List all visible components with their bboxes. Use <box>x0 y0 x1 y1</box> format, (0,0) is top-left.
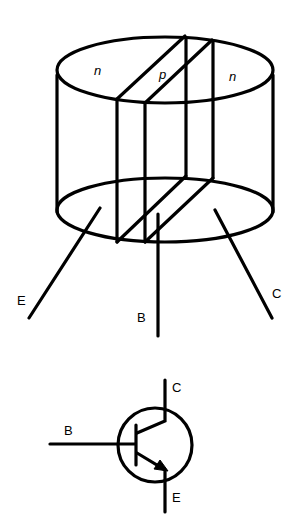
terminal-label-b: B <box>137 310 146 325</box>
symbol-label-b: B <box>64 423 73 438</box>
terminal-label-c: C <box>272 286 281 301</box>
emitter-arrow-icon <box>154 460 168 471</box>
p-boundary-top-left <box>117 36 185 99</box>
transistor-diagram: n p n E B C B C E <box>0 0 295 532</box>
p-boundary-bottom-left <box>117 176 186 242</box>
region-label-n-right: n <box>229 69 236 84</box>
bottom-ellipse <box>57 178 273 242</box>
symbol-label-c: C <box>172 380 181 395</box>
npn-cylinder-model: n p n E B C <box>17 36 281 336</box>
region-label-p: p <box>158 67 166 82</box>
p-boundary-top-right <box>145 40 212 103</box>
symbol-label-e: E <box>172 490 181 505</box>
symbol-collector-wire <box>137 380 165 433</box>
region-label-n-left: n <box>94 63 101 78</box>
emitter-lead <box>29 208 100 318</box>
npn-circuit-symbol: B C E <box>50 380 192 512</box>
p-boundary-bottom-right <box>145 178 213 242</box>
terminal-label-e: E <box>17 293 26 308</box>
collector-lead <box>215 210 272 318</box>
